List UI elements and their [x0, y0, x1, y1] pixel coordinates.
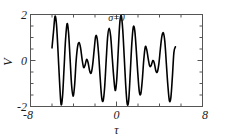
- x-axis-label: τ: [114, 123, 119, 137]
- xtick-label-mid: 0: [114, 108, 120, 122]
- ytick-label-min: -2: [17, 100, 27, 114]
- sigma-annotation: σ=0: [108, 12, 125, 23]
- figure-container: -8 0 8 2 0 -2 τ V σ=0: [0, 0, 227, 138]
- xtick-label-max: 8: [202, 108, 208, 122]
- chart-canvas: -8 0 8 2 0 -2 τ V σ=0: [0, 0, 227, 138]
- ytick-label-max: 2: [21, 8, 27, 22]
- ytick-label-mid: 0: [21, 54, 27, 68]
